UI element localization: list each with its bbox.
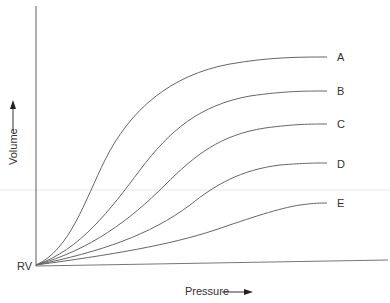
curve-c	[36, 124, 327, 265]
up-arrow-icon	[10, 100, 16, 131]
curve-b	[36, 91, 327, 265]
curve-label-c: C	[337, 118, 345, 130]
curve-a	[36, 57, 327, 265]
origin-label: RV	[17, 260, 33, 272]
curve-e	[36, 203, 327, 265]
curve-label-e: E	[337, 197, 344, 209]
x-axis	[36, 260, 388, 266]
curve-label-b: B	[337, 85, 344, 97]
pv-diagram: A B C D E RV Volume Pressure	[0, 0, 390, 303]
y-axis-label: Volume	[7, 128, 19, 165]
curve-label-a: A	[337, 51, 345, 63]
curve-label-d: D	[337, 158, 345, 170]
x-axis-label: Pressure	[185, 285, 229, 297]
